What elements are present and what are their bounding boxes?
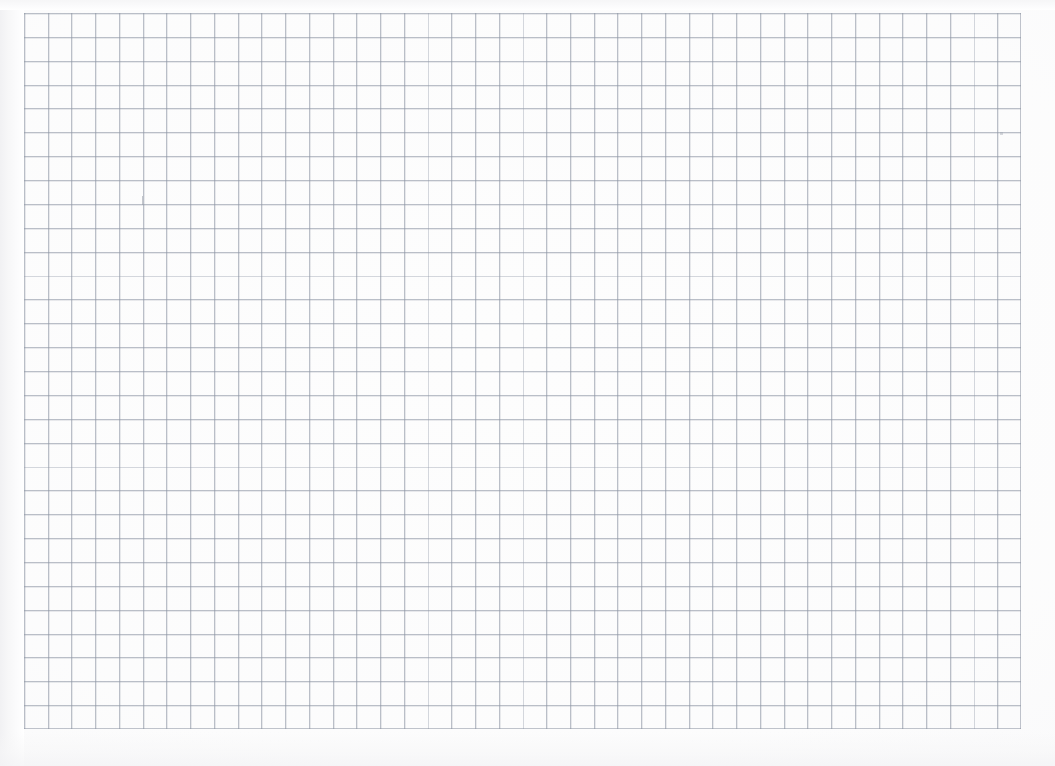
grid-bottom-border-line — [24, 728, 1021, 729]
graph-paper-page: Blank square-ruled graph paper sheet — [0, 0, 1055, 766]
grid-lines-sharp-layer — [24, 13, 1021, 729]
grid-area — [24, 13, 1021, 729]
grid-right-border-line — [1020, 13, 1021, 729]
grid-lines-soft-layer — [24, 13, 1021, 729]
